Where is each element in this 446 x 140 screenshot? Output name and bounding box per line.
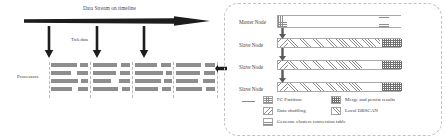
partition-dispatch-arrow-icon-3 [279, 70, 286, 83]
legend-swatch-local-dbscan [331, 107, 341, 115]
processors-label: Processors [17, 74, 38, 79]
processor-block [93, 79, 111, 83]
processor-block [51, 79, 78, 83]
node-label-slave-3: Slave Node [239, 86, 263, 92]
legend-label-local-dbscan: Local DBSCAN [345, 107, 378, 115]
processors-grid [49, 62, 219, 98]
timeline-arrow-icon [24, 16, 210, 26]
legend: FC Partition Merge and persist results D… [237, 93, 435, 133]
partition-dispatch-arrow-icon-2 [279, 48, 286, 61]
processor-block [176, 79, 198, 83]
processor-block [51, 71, 71, 75]
segment-idle [362, 61, 382, 69]
segment-merge-persist [382, 39, 402, 47]
processor-block [166, 71, 172, 75]
processor-block [135, 71, 163, 75]
processor-block [162, 87, 171, 91]
processor-block [164, 79, 172, 83]
processor-block [77, 71, 88, 75]
segment-local-dbscan [288, 61, 362, 69]
segment-idle [362, 83, 382, 91]
processor-block [80, 63, 88, 67]
legend-label-merge-persist: Merge and persist results [345, 96, 395, 104]
segment-clusters-table [379, 16, 389, 27]
processor-column-divider [132, 62, 133, 98]
tick-data-label: Tick data [71, 38, 88, 43]
processor-block [119, 79, 130, 83]
tick-arrow-icon-3 [139, 26, 149, 58]
legend-swatch-merge-persist [331, 96, 341, 104]
processor-block [161, 63, 171, 67]
processor-block [78, 87, 88, 91]
slave-node-bar-3 [277, 82, 401, 92]
processor-block [51, 87, 72, 91]
tick-arrow-icon-2 [92, 26, 102, 58]
processor-block [122, 87, 130, 91]
legend-label-clusters-table: Generate clusters conversion table [277, 118, 346, 126]
processor-column-divider [49, 62, 50, 98]
legend-swatch-clusters-table [263, 118, 273, 126]
segment-idle [287, 16, 379, 27]
master-node-bar [277, 15, 401, 28]
segment-data-shuffling [278, 83, 288, 91]
legend-swatch-data-shuffling [263, 107, 273, 115]
slave-node-bar-1 [277, 38, 401, 48]
processor-block [135, 87, 158, 91]
processor-block [135, 79, 161, 83]
processor-block [93, 87, 118, 91]
node-label-slave-1: Slave Node [239, 42, 263, 48]
data-stream-title: Data Stream on timeline [83, 6, 136, 11]
processor-block [135, 63, 157, 67]
segment-fc-partition [278, 16, 287, 27]
segment-local-dbscan [288, 83, 362, 91]
processor-block [204, 71, 215, 75]
segment-data-shuffling [278, 39, 288, 47]
processor-block [121, 63, 130, 67]
legend-label-data-shuffling: Data shuffling [277, 107, 306, 115]
segment-merge-persist [382, 83, 402, 91]
processor-block [206, 87, 215, 91]
processor-block [176, 71, 200, 75]
processor-block [176, 63, 201, 67]
segment-data-shuffling [278, 61, 288, 69]
distributed-dbscan-pipeline-figure: Data Stream on timeline Tick data Proces… [0, 0, 446, 140]
processor-block [93, 63, 117, 67]
legend-leader-line [242, 101, 255, 102]
node-label-slave-2: Slave Node [239, 64, 263, 70]
processor-block [203, 79, 215, 83]
segment-local-dbscan [288, 39, 380, 47]
segment-idle-tail [389, 16, 401, 27]
processor-block [205, 63, 215, 67]
legend-label-fc-partition: FC Partition [277, 96, 302, 104]
processor-block [176, 87, 202, 91]
processor-column-divider [173, 62, 174, 98]
slave-node-bar-2 [277, 60, 401, 70]
processor-block [93, 71, 116, 75]
tick-arrow-icon-1 [44, 26, 54, 58]
legend-swatch-fc-partition [263, 96, 273, 104]
processor-column-divider [90, 62, 91, 98]
partition-dispatch-arrow-icon-1 [279, 28, 286, 39]
node-label-master: Master Node [239, 19, 266, 25]
processor-block [51, 63, 77, 67]
processor-block [120, 71, 130, 75]
segment-merge-persist [382, 61, 402, 69]
data-stream-panel: Data Stream on timeline Tick data Proces… [0, 0, 223, 140]
processor-block [81, 79, 88, 83]
